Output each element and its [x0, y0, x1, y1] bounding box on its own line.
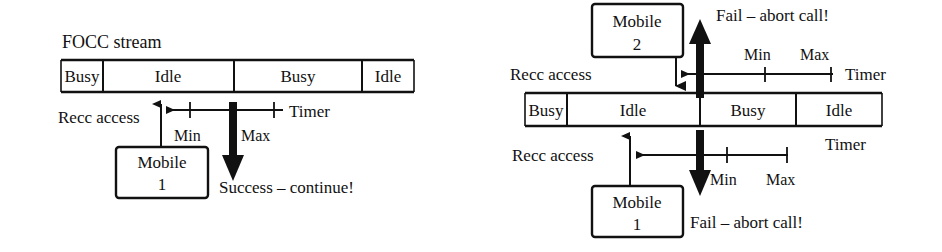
right-segment-3-label: Idle: [826, 101, 852, 120]
right-mobile-2-name: Mobile: [612, 12, 661, 31]
right-mobile-1-number: 1: [633, 215, 642, 234]
left-max-label: Max: [241, 127, 270, 144]
left-segment-1-label: Idle: [155, 67, 181, 86]
right-timer-bottom-label: Timer: [825, 135, 866, 154]
right-timer-bottom-line: [636, 147, 788, 163]
right-panel: Mobile 2 Recc access Min Max Timer Fail …: [510, 4, 886, 237]
right-mobile-2-box: Mobile 2: [592, 4, 683, 57]
right-outcome-top-label: Fail – abort call!: [716, 6, 829, 25]
left-segment-2-label: Busy: [281, 67, 316, 86]
right-recc-access-top-label: Recc access: [510, 65, 592, 84]
right-outcome-bottom-label: Fail – abort call!: [690, 213, 803, 232]
left-focc-stream-bar: Busy Idle Busy Idle: [61, 60, 414, 92]
right-min-top-label: Min: [744, 46, 771, 63]
left-panel: FOCC stream Busy Idle Busy Idle Recc acc…: [58, 32, 414, 198]
right-segment-0-label: Busy: [529, 101, 564, 120]
left-outcome-label: Success – continue!: [219, 178, 354, 197]
right-segment-2-label: Busy: [731, 101, 766, 120]
left-mobile-1-box: Mobile 1: [116, 147, 208, 198]
right-recc-access-bottom-label: Recc access: [512, 146, 594, 165]
left-timer-line: [166, 102, 283, 118]
left-segment-0-label: Busy: [65, 67, 100, 86]
right-max-top-label: Max: [800, 46, 829, 63]
figure-canvas: FOCC stream Busy Idle Busy Idle Recc acc…: [0, 0, 942, 252]
left-timer-label: Timer: [289, 102, 330, 121]
left-mobile-1-name: Mobile: [137, 153, 186, 172]
left-segment-3-label: Idle: [375, 67, 401, 86]
timing-diagram-svg: FOCC stream Busy Idle Busy Idle Recc acc…: [0, 0, 942, 252]
right-fail-top-arrow: [689, 19, 711, 98]
right-timer-top-label: Timer: [845, 65, 886, 84]
right-segment-1-label: Idle: [620, 101, 646, 120]
right-mobile-1-name: Mobile: [612, 193, 661, 212]
right-mobile-2-number: 2: [633, 35, 642, 54]
right-max-bottom-label: Max: [766, 171, 795, 188]
left-recc-access-label: Recc access: [58, 108, 140, 127]
left-mobile-1-number: 1: [158, 175, 167, 194]
left-min-label: Min: [174, 127, 201, 144]
right-mobile-1-box: Mobile 1: [592, 186, 683, 237]
right-fail-bottom-arrow: [689, 130, 711, 196]
right-min-bottom-label: Min: [710, 171, 737, 188]
left-panel-title: FOCC stream: [62, 32, 162, 52]
